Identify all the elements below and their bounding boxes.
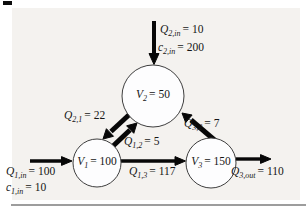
label-c2-in: c2,in= 200 [158, 41, 204, 53]
label-q21-sub: 2,1 [72, 115, 82, 124]
label-q1-in: Q1,in= 100 [6, 165, 55, 177]
label-q1-in-sub: 1,in [14, 171, 26, 180]
label-q12-sub: 1,2 [132, 141, 142, 150]
label-c1-in: c1,in= 10 [6, 181, 46, 193]
figure-canvas: Q2,in= 10 c2,in= 200 V2= 50 Q2,1= 22 Q1,… [0, 0, 306, 210]
label-q13: Q1,3= 117 [129, 165, 176, 177]
label-q13-value: = 117 [149, 165, 175, 177]
label-q21: Q2,1= 22 [64, 109, 105, 121]
label-c1-in-sub: 1,in [11, 187, 23, 196]
label-q3-out-value: = 110 [258, 165, 284, 177]
label-node-v2-value: = 50 [149, 88, 170, 100]
label-q12-value: = 5 [144, 135, 159, 147]
label-q3-out: Q3,out= 110 [231, 165, 284, 177]
label-node-v3-sub: 3 [198, 161, 202, 170]
label-node-v2: V2= 50 [122, 88, 184, 100]
reactor-flow-diagram [0, 0, 306, 210]
label-c2-in-sub: 2,in [163, 47, 175, 56]
label-node-v1-sub: 1 [84, 161, 88, 170]
label-q21-value: = 22 [84, 109, 105, 121]
label-c2-in-value: = 200 [177, 41, 204, 53]
label-q2-in-sub: 2,in [168, 29, 180, 38]
label-node-v2-sub: 2 [143, 94, 147, 103]
label-q2-in-value: = 10 [183, 23, 204, 35]
label-q1-in-value: = 100 [29, 165, 56, 177]
label-q32-value: = 7 [204, 117, 219, 129]
label-node-v1-value: = 100 [90, 155, 117, 167]
label-q3-out-sub: 3,out [239, 171, 255, 180]
label-node-v3-value: = 150 [204, 155, 231, 167]
label-node-v3: V3= 150 [186, 155, 236, 167]
label-q13-sub: 1,3 [137, 171, 147, 180]
label-node-v1: V1= 100 [73, 155, 121, 167]
label-c1-in-value: = 10 [25, 181, 46, 193]
label-q32-sub: 3,2 [192, 123, 202, 132]
label-q2-in: Q2,in= 10 [160, 23, 203, 35]
label-q32: Q3,2= 7 [184, 117, 219, 129]
label-q12: Q1,2= 5 [124, 135, 159, 147]
arrow-q3out-out-of-v3 [236, 155, 271, 164]
